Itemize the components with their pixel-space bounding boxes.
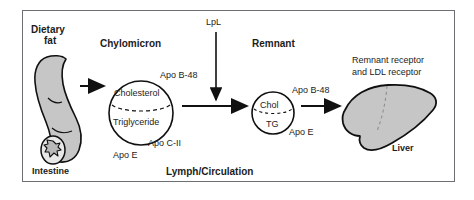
remnant-chol-label: Chol [260,100,279,110]
chylomicron-apo-b48-label: Apo B-48 [160,70,198,80]
receptor-label-line1: Remnant receptor [352,55,424,65]
figure-canvas: Dietary fat Intestine Chylomicron LpL Re… [0,0,474,200]
remnant-apo-e-label: Apo E [289,127,314,137]
receptor-label-line2: and LDL receptor [352,67,421,77]
dietary-fat-label-line1: Dietary [31,24,65,35]
chylomicron-apo-e-label: Apo E [113,150,138,160]
chylomicron-apo-cii-label: Apo C-II [148,138,181,148]
remnant-label: Remnant [252,38,295,49]
lpl-label: LpL [206,17,221,27]
remnant-apo-b48-label: Apo B-48 [292,85,330,95]
dietary-fat-label-line2: fat [44,35,56,46]
chylomicron-cholesterol-label: Cholesterol [114,88,160,98]
liver-label: Liver [392,143,414,153]
liver-shape [343,85,437,150]
chylomicron-label: Chylomicron [100,38,161,49]
intestine-shape [35,56,81,164]
remnant-tg-label: TG [266,119,279,129]
intestine-label: Intestine [32,166,69,176]
chylomicron-triglyceride-label: Triglyceride [113,117,159,127]
lymph-circulation-label: Lymph/Circulation [166,166,253,177]
